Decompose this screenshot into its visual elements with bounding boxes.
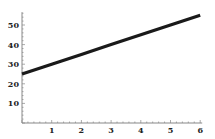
x-tick-label: 1 xyxy=(49,125,55,135)
y-tick-label: 50 xyxy=(8,20,20,30)
y-tick-label: 20 xyxy=(8,79,20,89)
x-tick-label: 3 xyxy=(108,125,114,135)
x-tick-label: 2 xyxy=(79,125,85,135)
tick-labels: 1234561020304050 xyxy=(8,20,204,135)
y-tick-label: 10 xyxy=(8,98,20,108)
y-tick-label: 30 xyxy=(8,59,20,69)
axes xyxy=(22,12,202,123)
data-series xyxy=(22,15,200,74)
line-chart: 1234561020304050 xyxy=(0,0,215,139)
axis-ticks xyxy=(22,13,200,123)
series-line xyxy=(22,15,200,74)
x-tick-label: 5 xyxy=(168,125,174,135)
x-tick-label: 4 xyxy=(138,125,144,135)
x-tick-label: 6 xyxy=(197,125,203,135)
y-tick-label: 40 xyxy=(8,40,20,50)
